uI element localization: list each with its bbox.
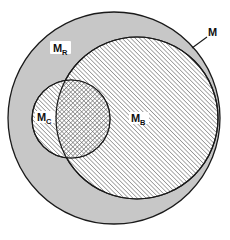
leader-line-M: [192, 37, 207, 48]
set-diagram-figure: M M R M C M B: [0, 0, 230, 240]
label-M: M: [208, 26, 217, 38]
label-MR-subscript: R: [62, 48, 68, 57]
label-MB: M: [131, 112, 140, 124]
label-MC: M: [37, 111, 46, 123]
label-MR: M: [53, 42, 62, 54]
venn-diagram-canvas: M M R M C M B: [0, 0, 230, 240]
label-MC-subscript: C: [46, 117, 52, 126]
label-MB-subscript: B: [140, 118, 146, 127]
